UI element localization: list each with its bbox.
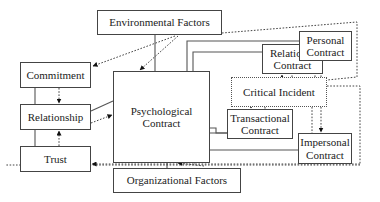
impersonal-contract-label-line2: Contract — [306, 149, 344, 162]
critical-incident-label: Critical Incident — [243, 86, 315, 99]
transactional-contract-label-line2: Contract — [241, 124, 279, 137]
organizational-factors-label: Organizational Factors — [127, 174, 227, 187]
trust-box: Trust — [20, 146, 91, 172]
relationship-box: Relationship — [20, 104, 91, 130]
psychological-contract-label-line1: Psychological — [131, 105, 193, 118]
psychological-contract-label-line2: Contract — [143, 117, 181, 130]
personal-contract-label-line1: Personal — [307, 34, 345, 47]
trust-label: Trust — [44, 153, 67, 166]
commitment-label: Commitment — [26, 69, 84, 82]
impersonal-contract-box: Impersonal Contract — [298, 133, 352, 164]
environmental-factors-box: Environmental Factors — [97, 10, 222, 35]
commitment-box: Commitment — [20, 62, 91, 88]
relationship-label: Relationship — [28, 111, 84, 124]
psychological-contract-box: Psychological Contract — [113, 71, 210, 163]
psychological-contract-diagram: Environmental Factors Commitment Relatio… — [0, 0, 380, 202]
critical-incident-box: Critical Incident — [231, 77, 327, 107]
personal-contract-box: Personal Contract — [299, 31, 352, 61]
transactional-contract-box: Transactional Contract — [227, 109, 293, 139]
impersonal-contract-label-line1: Impersonal — [300, 136, 349, 149]
personal-contract-label-line2: Contract — [307, 46, 345, 59]
transactional-contract-label-line1: Transactional — [230, 112, 289, 125]
environmental-factors-label: Environmental Factors — [109, 16, 210, 29]
organizational-factors-box: Organizational Factors — [113, 168, 241, 193]
